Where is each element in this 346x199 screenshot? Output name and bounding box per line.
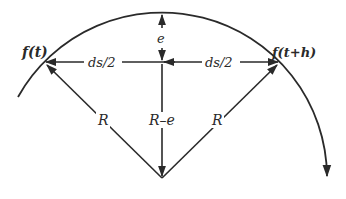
label-r-left: R: [97, 112, 109, 128]
label-ds-half-left: ds/2: [88, 55, 116, 70]
label-r-right: R: [211, 112, 223, 128]
label-r-minus-e: R–e: [148, 112, 175, 128]
label-ds-half-right: ds/2: [205, 55, 233, 70]
arc-chord-diagram: f(t) f(t+h) ds/2 ds/2 e R R–e R: [0, 0, 346, 199]
label-f-t-plus-h: f(t+h): [271, 45, 316, 60]
label-e: e: [157, 31, 165, 46]
curve-arc: [18, 13, 327, 176]
label-f-t: f(t): [21, 44, 48, 60]
